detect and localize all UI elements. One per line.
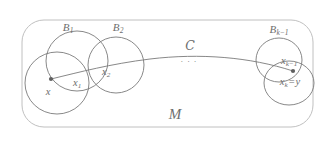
point-xk-1-label: xk−1: [281, 56, 297, 67]
ball-2-outline: [88, 37, 144, 93]
point-xk-label: xk=y: [280, 77, 301, 88]
ball-k-1-label: Bk−1: [270, 24, 289, 35]
point-x1-label: x1: [73, 78, 81, 89]
ball-1-label: B1: [63, 22, 73, 33]
curve-c-path: [51, 56, 293, 79]
ball-2-label: B2: [113, 22, 123, 33]
manifold-boundary: [22, 20, 313, 127]
point-y-marker: [291, 69, 295, 73]
math-diagram: B1 B2 Bk−1 x x1 x2 xk−1 xk=y C · · · M: [0, 0, 335, 143]
point-x-marker: [49, 77, 53, 81]
manifold-label: M: [169, 107, 182, 122]
diagram-canvas: [0, 0, 335, 143]
curve-c-label: C: [185, 40, 195, 53]
point-x-label: x: [46, 87, 51, 98]
chain-ellipsis: · · ·: [181, 58, 198, 66]
point-x2-label: x2: [102, 67, 110, 78]
